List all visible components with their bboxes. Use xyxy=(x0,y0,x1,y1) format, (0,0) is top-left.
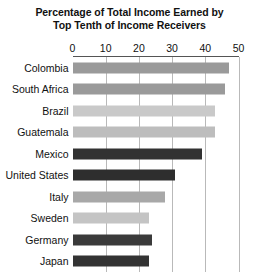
bar-row: Japan xyxy=(0,251,259,272)
bar-label-germany: Germany xyxy=(25,234,68,246)
bar-brazil xyxy=(73,105,216,116)
bar-row: United States xyxy=(0,165,259,187)
bar-label-sweden: Sweden xyxy=(31,212,69,224)
bar-row: Guatemala xyxy=(0,122,259,144)
bar-label-italy: Italy xyxy=(49,191,68,203)
bar-row: Brazil xyxy=(0,100,259,122)
chart-title-line-2: Top Tenth of Income Receivers xyxy=(0,19,259,32)
bar-colombia xyxy=(73,62,229,73)
bar-row: Sweden xyxy=(0,208,259,230)
bar-south-africa xyxy=(73,84,226,95)
chart-title: Percentage of Total Income Earned by Top… xyxy=(0,6,259,32)
bar-chart: Percentage of Total Income Earned by Top… xyxy=(0,0,259,272)
bar-label-japan: Japan xyxy=(40,255,69,267)
bar-guatemala xyxy=(73,127,216,138)
bar-label-united-states: United States xyxy=(5,169,68,181)
bar-row: Mexico xyxy=(0,143,259,165)
bar-italy xyxy=(73,191,166,202)
bar-sweden xyxy=(73,213,149,224)
x-axis-tick-label-50: 50 xyxy=(233,42,245,54)
bar-united-states xyxy=(73,170,176,181)
x-axis-tick-label-30: 30 xyxy=(166,42,178,54)
bar-germany xyxy=(73,234,153,245)
plot-area: ColombiaSouth AfricaBrazilGuatemalaMexic… xyxy=(0,57,259,272)
x-axis-tick-label-40: 40 xyxy=(199,42,211,54)
bar-label-mexico: Mexico xyxy=(35,148,68,160)
bar-row: Germany xyxy=(0,229,259,251)
x-axis-tick-label-10: 10 xyxy=(100,42,112,54)
bar-mexico xyxy=(73,148,202,159)
x-axis-tick-label-20: 20 xyxy=(133,42,145,54)
chart-title-line-1: Percentage of Total Income Earned by xyxy=(0,6,259,19)
bar-japan xyxy=(73,256,149,267)
bar-row: South Africa xyxy=(0,79,259,101)
bar-row: Colombia xyxy=(0,57,259,79)
bar-label-colombia: Colombia xyxy=(24,62,68,74)
bar-row: Italy xyxy=(0,186,259,208)
bar-label-brazil: Brazil xyxy=(42,105,68,117)
bar-label-guatemala: Guatemala xyxy=(17,126,68,138)
x-axis-tick-label-0: 0 xyxy=(70,42,76,54)
x-axis-tick-labels: 01020304050 xyxy=(0,42,259,55)
bar-label-south-africa: South Africa xyxy=(12,83,69,95)
